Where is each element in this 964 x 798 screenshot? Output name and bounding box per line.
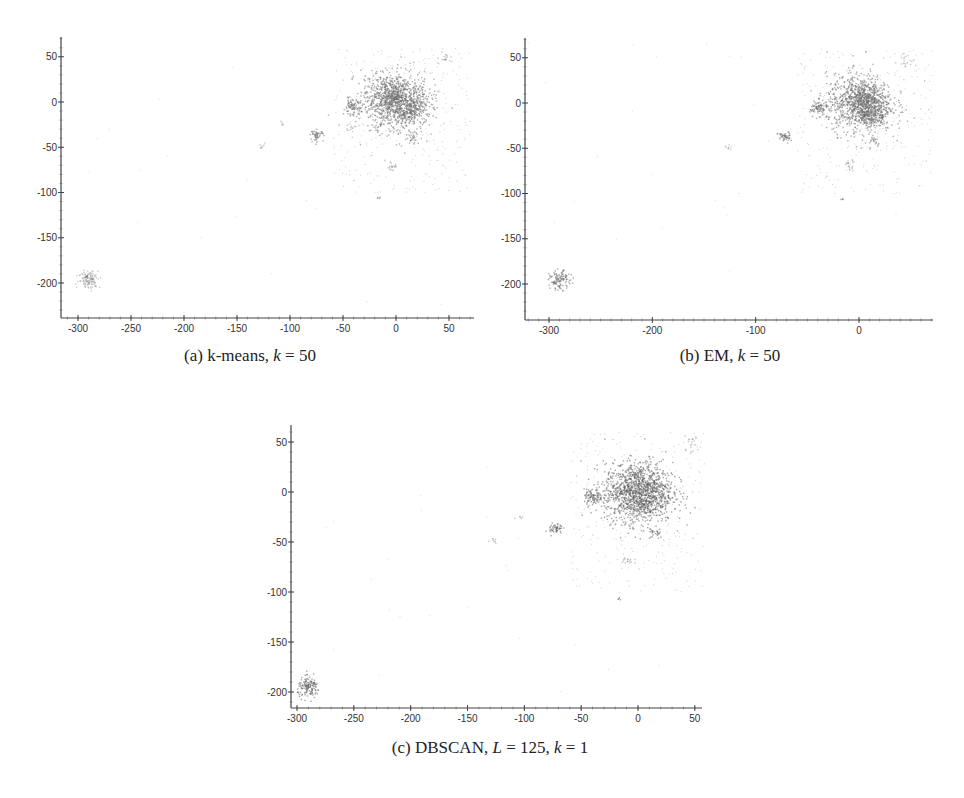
caption-c: (c) DBSCAN, L = 125, k = 1 [320, 738, 660, 758]
x-tick-label: -150 [457, 713, 477, 724]
x-tick-label: -50 [574, 713, 589, 724]
data-points [297, 432, 705, 702]
y-tick-label: -50 [273, 537, 288, 548]
x-tick-label: -250 [344, 713, 364, 724]
y-tick-label: -150 [267, 637, 287, 648]
x-tick-label: 0 [635, 713, 641, 724]
y-tick-label: -200 [267, 687, 287, 698]
y-tick-label: 0 [281, 487, 287, 498]
x-tick-label: -200 [401, 713, 421, 724]
y-tick-label: 50 [276, 437, 288, 448]
axes: 500-50-100-150-200-300-250-200-150-100-5… [267, 425, 702, 724]
scatter-plot-c: 500-50-100-150-200-300-250-200-150-100-5… [0, 0, 964, 730]
x-tick-label: -100 [514, 713, 534, 724]
x-tick-label: 50 [689, 713, 701, 724]
chart-panel-c: 500-50-100-150-200-300-250-200-150-100-5… [0, 0, 964, 798]
y-tick-label: -100 [267, 587, 287, 598]
x-tick-label: -300 [287, 713, 307, 724]
